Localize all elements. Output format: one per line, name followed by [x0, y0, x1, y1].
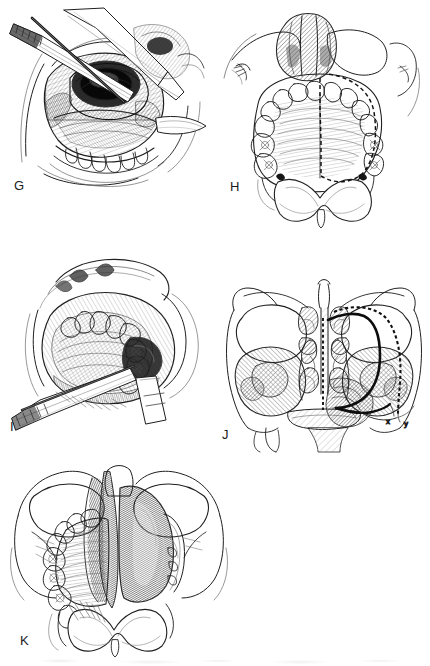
panel-i-illustration [10, 250, 210, 440]
panel-j: x y J [222, 262, 427, 452]
panel-h-illustration [222, 8, 427, 233]
figure-plate: G [0, 0, 430, 666]
panel-g: G [8, 6, 208, 201]
j-sublabel-x: x [386, 417, 390, 426]
panel-k-label: K [20, 634, 29, 647]
panel-k-illustration [8, 452, 230, 657]
panel-h: H [222, 8, 427, 233]
panel-g-label: G [14, 179, 24, 192]
panel-h-label: H [230, 180, 240, 193]
panel-i-label: I [10, 420, 14, 433]
panel-k: K [8, 452, 230, 657]
page-edge-artifact [0, 656, 430, 666]
panel-i: I [10, 250, 210, 440]
panel-g-illustration [8, 6, 208, 201]
j-sublabel-y: y [404, 419, 408, 428]
panel-j-label: J [222, 428, 229, 441]
panel-j-illustration: x y [222, 262, 427, 452]
